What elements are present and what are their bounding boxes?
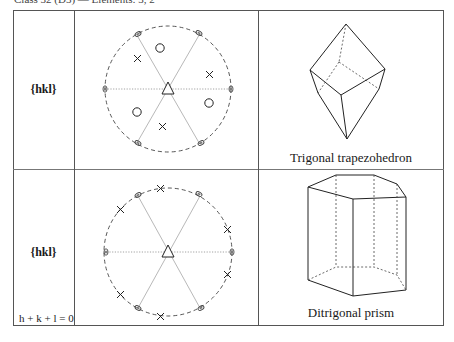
- crystal-caption-row-2: Ditrigonal prism: [258, 305, 444, 321]
- crystal-ditrigonal-prism: [308, 175, 406, 296]
- crystal-caption-row-1: Trigonal trapezohedron: [258, 150, 444, 166]
- stereogram-top: [103, 26, 233, 152]
- diagram-canvas: [0, 0, 454, 342]
- stereogram-bottom: [104, 185, 234, 320]
- crystal-trigonal-trapezohedron: [310, 24, 385, 139]
